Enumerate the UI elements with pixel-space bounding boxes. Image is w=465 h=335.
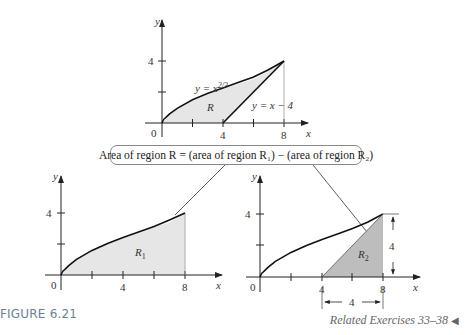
xtick-8: 8: [380, 283, 386, 295]
connector-right: [313, 165, 367, 232]
x-axis-label: x: [305, 127, 311, 139]
ytick-4: 4: [148, 55, 154, 67]
dim-vertical-label: 4: [389, 240, 395, 252]
right-plot: 4 4 y x 0 4 8 4 R2: [245, 170, 420, 309]
origin-label: 0: [151, 127, 157, 139]
origin-label: 0: [51, 279, 57, 291]
x-axis-label: x: [215, 279, 221, 291]
figure-caption: FIGURE 6.21: [0, 307, 77, 321]
xtick-4: 4: [319, 283, 325, 295]
ytick-4: 4: [245, 208, 251, 220]
equation-box: Area of region R = (area of region R₁) −…: [110, 145, 362, 165]
x-axis-label: x: [412, 281, 418, 293]
figure-canvas: y x 0 4 8 4 y = x2/3 y = x − 4 R y x 0 4…: [0, 0, 465, 335]
xtick-8: 8: [182, 281, 188, 293]
dim-horizontal-label: 4: [349, 296, 355, 308]
origin-label: 0: [250, 281, 256, 293]
left-plot: y x 0 4 8 4 R1: [45, 170, 222, 293]
y-axis-label: y: [251, 170, 257, 182]
region-r-label: R: [206, 101, 214, 113]
region-r1-fill: [61, 213, 185, 275]
ytick-4: 4: [46, 207, 52, 219]
xtick-4: 4: [220, 129, 226, 141]
related-exercises: Related Exercises 33–38 ◀: [330, 313, 459, 328]
xtick-4: 4: [120, 281, 126, 293]
arrow-left-icon: ◀: [451, 315, 459, 326]
line-label: y = x − 4: [251, 99, 294, 111]
y-axis-label: y: [154, 15, 160, 27]
xtick-8: 8: [281, 129, 287, 141]
connector-left: [175, 165, 225, 215]
top-plot: y x 0 4 8 4 y = x2/3 y = x − 4 R: [145, 15, 311, 141]
y-axis-label: y: [52, 170, 58, 182]
related-text: Related Exercises 33–38: [330, 313, 448, 327]
